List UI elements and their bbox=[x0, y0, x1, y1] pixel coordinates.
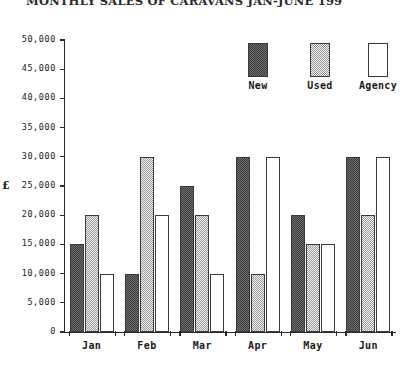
y-axis-tick-label: 5,000 bbox=[27, 297, 56, 307]
x-axis-tick-mark bbox=[124, 331, 125, 336]
bar-agency-feb bbox=[155, 215, 169, 332]
bar-chart: MONTHLY SALES OF CARAVANS JAN-JUNE 199 5… bbox=[0, 0, 405, 367]
legend-swatch-new bbox=[248, 43, 268, 77]
bar-used-may bbox=[306, 244, 320, 332]
bar-new-may bbox=[291, 215, 305, 332]
bar-new-apr bbox=[236, 157, 250, 332]
y-axis-tick-label: 25,000 bbox=[22, 180, 56, 190]
x-axis-tick-mark bbox=[235, 331, 236, 336]
bar-used-jun bbox=[361, 215, 375, 332]
legend-swatch-used bbox=[310, 43, 330, 77]
y-axis-tick-label: 40,000 bbox=[22, 92, 56, 102]
bar-new-jun bbox=[346, 157, 360, 332]
bar-new-jan bbox=[70, 244, 84, 332]
legend-entry-used[interactable]: Used bbox=[292, 43, 348, 91]
bar-used-feb bbox=[140, 157, 154, 332]
bar-used-jan bbox=[85, 215, 99, 332]
bar-used-mar bbox=[195, 215, 209, 332]
legend-swatch-agency bbox=[368, 43, 388, 77]
x-axis-label-may: May bbox=[285, 340, 340, 351]
legend-entry-agency[interactable]: Agency bbox=[350, 43, 405, 91]
x-axis-label-apr: Apr bbox=[230, 340, 285, 351]
y-axis-tick-label: 35,000 bbox=[22, 122, 56, 132]
legend-label-agency: Agency bbox=[350, 80, 405, 91]
x-axis-tick-mark bbox=[170, 331, 171, 336]
bar-new-feb bbox=[125, 274, 139, 332]
x-axis-label-jan: Jan bbox=[64, 340, 119, 351]
x-axis-tick-mark bbox=[290, 331, 291, 336]
legend-label-new: New bbox=[230, 80, 286, 91]
x-axis-tick-mark bbox=[179, 331, 180, 336]
y-axis-tick-label: 10,000 bbox=[22, 268, 56, 278]
bar-used-apr bbox=[251, 274, 265, 332]
bar-agency-mar bbox=[210, 274, 224, 332]
x-axis-tick-mark bbox=[225, 331, 226, 336]
y-axis-tick-label: 30,000 bbox=[22, 151, 56, 161]
x-axis-tick-mark bbox=[281, 331, 282, 336]
bar-new-mar bbox=[180, 186, 194, 332]
x-axis-label-feb: Feb bbox=[119, 340, 174, 351]
y-axis-tick-label: 45,000 bbox=[22, 63, 56, 73]
chart-title: MONTHLY SALES OF CARAVANS JAN-JUNE 199 bbox=[26, 0, 376, 8]
legend-entry-new[interactable]: New bbox=[230, 43, 286, 91]
chart-legend: NewUsedAgency bbox=[230, 43, 400, 99]
bar-group bbox=[175, 40, 230, 332]
x-axis-tick-mark bbox=[115, 331, 116, 336]
y-axis-currency-label: £ bbox=[2, 179, 10, 192]
x-axis-tick-mark bbox=[391, 331, 392, 336]
x-axis-label-jun: Jun bbox=[341, 340, 396, 351]
x-axis-tick-mark bbox=[69, 331, 70, 336]
x-axis-label-mar: Mar bbox=[175, 340, 230, 351]
x-axis-tick-mark bbox=[336, 331, 337, 336]
legend-label-used: Used bbox=[292, 80, 348, 91]
bar-agency-jun bbox=[376, 157, 390, 332]
bar-agency-may bbox=[321, 244, 335, 332]
bar-group bbox=[64, 40, 119, 332]
y-axis-tick-label: 50,000 bbox=[22, 34, 56, 44]
bar-group bbox=[119, 40, 174, 332]
bar-agency-jan bbox=[100, 274, 114, 332]
y-axis-tick-label: 20,000 bbox=[22, 209, 56, 219]
bar-agency-apr bbox=[266, 157, 280, 332]
y-axis-tick-label: 15,000 bbox=[22, 238, 56, 248]
y-axis-tick-label: 0 bbox=[50, 326, 56, 336]
x-axis-tick-mark bbox=[345, 331, 346, 336]
